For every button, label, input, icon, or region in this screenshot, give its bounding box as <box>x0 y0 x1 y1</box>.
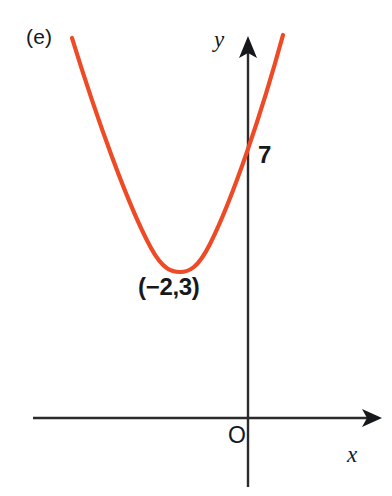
y-intercept-label: 7 <box>258 143 271 167</box>
parabola-figure: (e) y x 7 (−2,3) O <box>0 0 392 496</box>
x-axis-label: x <box>347 443 357 466</box>
parabola-curve <box>72 35 283 272</box>
origin-label: O <box>228 424 246 447</box>
y-axis-label: y <box>214 28 224 51</box>
graph-canvas <box>0 0 392 496</box>
part-label: (e) <box>26 26 52 47</box>
vertex-coordinate-label: (−2,3) <box>138 275 200 299</box>
